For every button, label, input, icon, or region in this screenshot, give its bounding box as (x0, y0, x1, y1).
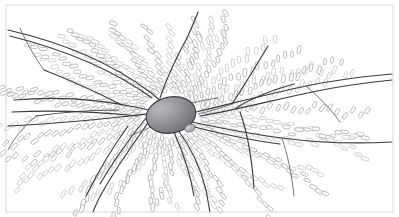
filament-cell (106, 61, 114, 65)
filament-cell (342, 135, 350, 139)
filament-cell (277, 55, 280, 62)
filament-cell (280, 67, 284, 74)
filament-cell (243, 68, 248, 77)
filament-cell (312, 127, 320, 131)
filament-cell (129, 100, 137, 104)
filament-cell (59, 57, 67, 61)
filament-cell (295, 142, 303, 147)
filament-cell (67, 29, 73, 33)
filament-cell (246, 115, 253, 119)
filament-cell (283, 51, 286, 58)
filament-cell (143, 148, 147, 155)
filament-cell (56, 70, 63, 73)
filament-cell (288, 133, 296, 137)
filament-cell (163, 173, 166, 180)
filament-cell (96, 53, 104, 57)
filament-cell (113, 80, 121, 85)
filament-cell (63, 40, 70, 44)
filament-cell (266, 119, 274, 122)
filament-cell (273, 120, 281, 124)
filament-cell (41, 55, 48, 59)
filament-cell (252, 76, 255, 84)
filament-cell (273, 129, 280, 133)
filament-cell (217, 74, 221, 81)
filament-cell (229, 115, 236, 119)
filament-cell (219, 68, 223, 75)
filament-cell (295, 128, 303, 132)
filament-cell (39, 47, 47, 50)
filament-cell (246, 47, 250, 55)
filament-cell (91, 48, 99, 53)
filament-cell (264, 62, 267, 69)
filament-cell (225, 64, 229, 72)
filament-cell (201, 117, 209, 122)
filament-cell (288, 122, 295, 125)
filament-cell (229, 74, 232, 80)
filament-cell (168, 162, 173, 170)
filament-cell (222, 77, 226, 85)
filament-cell (79, 75, 87, 79)
filament-cell (74, 70, 81, 74)
illustration-figure (0, 0, 399, 217)
filament-cell (48, 59, 56, 62)
filament-cell (266, 125, 273, 129)
filament-cell (97, 70, 104, 74)
filament-cell (151, 187, 154, 193)
filament-cell (248, 87, 253, 95)
filament-cell (190, 94, 194, 101)
filament-cell (157, 146, 161, 154)
filament-cell (153, 164, 156, 171)
filament-cell (143, 98, 150, 101)
filament-cell (212, 77, 216, 84)
filament-cell (291, 51, 294, 57)
filament-cell (237, 56, 241, 63)
filament-cell (218, 83, 221, 89)
filament-cell (163, 143, 166, 149)
filament-cell (108, 84, 116, 88)
filament-cell (214, 114, 222, 118)
filament-cell (255, 47, 259, 54)
filament-cell (117, 207, 120, 214)
filament-cell (155, 198, 159, 205)
filament-cell (52, 53, 60, 56)
filament-cell (125, 88, 132, 92)
filament-cell (149, 180, 152, 188)
filament-cell (142, 158, 146, 166)
filament-cell (208, 120, 215, 124)
filament-cell (151, 203, 155, 211)
filament-cell (100, 83, 108, 86)
filament-cell (281, 75, 286, 84)
filament-cell (112, 212, 116, 217)
filament-cell (231, 59, 234, 67)
filament-cell (152, 158, 156, 164)
filament-cell (70, 64, 78, 68)
filament-cell (304, 128, 311, 132)
filament-cell (51, 65, 59, 70)
filament-cell (237, 116, 245, 119)
filament-cell (274, 35, 277, 43)
filament-cell (113, 90, 120, 93)
filament-cell (89, 85, 97, 88)
filament-cell (126, 176, 130, 184)
filament-cell (31, 45, 38, 48)
filament-cell (203, 80, 207, 88)
filament-cell (62, 62, 70, 65)
figure-canvas (0, 0, 399, 217)
filament-cell (261, 44, 265, 51)
filament-cell (108, 188, 112, 195)
filament-cell (121, 84, 128, 87)
filament-cell (323, 58, 326, 65)
filament-cell (271, 68, 275, 76)
filament-cell (260, 116, 266, 119)
filament-cell (108, 93, 115, 98)
filament-cell (237, 73, 241, 80)
filament-cell (212, 86, 215, 93)
filament-cell (260, 126, 267, 130)
